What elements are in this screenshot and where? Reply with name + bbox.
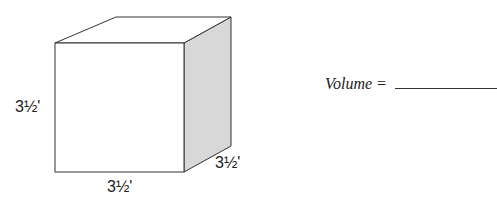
volume-label: Volume = (325, 75, 387, 92)
depth-label: 3½' (215, 154, 240, 172)
answer-blank[interactable] (395, 74, 497, 89)
cube-front-face (55, 43, 184, 172)
width-label: 3½' (107, 178, 132, 196)
cube-side-face (184, 17, 231, 172)
volume-question: Volume = (325, 74, 497, 93)
height-label: 3½' (15, 98, 40, 116)
